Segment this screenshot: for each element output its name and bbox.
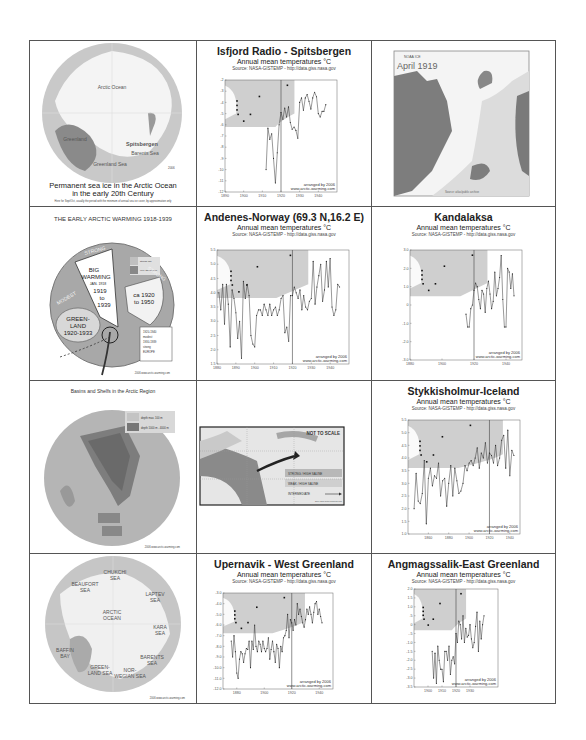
data-point <box>478 299 479 300</box>
data-point <box>464 642 465 643</box>
x-tick-label: 1910 <box>258 194 266 198</box>
y-tick-label: -7 <box>220 134 223 138</box>
inset-map <box>408 420 503 468</box>
data-point <box>465 314 466 315</box>
isfjord-svg: -2-3-4-5-6-7-8-9-10-11-12189019001910192… <box>211 77 341 201</box>
data-point <box>275 306 276 307</box>
y-tick-label: 1.0 <box>404 285 409 289</box>
data-point <box>495 445 496 446</box>
data-point <box>298 298 299 299</box>
data-point <box>250 667 251 668</box>
station-marker <box>236 109 238 111</box>
data-point <box>291 622 292 623</box>
chart-credit-2: www.arctic-warming.com <box>303 358 348 363</box>
map-stamp: 2006 <box>168 166 175 170</box>
ca-range-l1: ca 1920 <box>133 292 155 298</box>
x-tick-label: 1910 <box>270 366 278 370</box>
chart-credit-2: www.arctic-warming.com <box>476 354 521 359</box>
station-marker <box>444 265 446 267</box>
data-point <box>299 289 300 290</box>
station-marker <box>470 425 472 427</box>
data-point <box>240 651 241 652</box>
data-point <box>308 101 309 102</box>
data-point <box>483 293 484 294</box>
chart-source: Source: NASA-GISTEMP - http://data.giss.… <box>372 406 555 411</box>
data-point <box>504 326 505 327</box>
data-point <box>313 261 314 262</box>
big-warming-l6: 1939 <box>97 302 111 308</box>
data-point <box>304 627 305 628</box>
data-point <box>290 619 291 620</box>
data-point <box>322 111 323 112</box>
current-diagram: NOT TO SCALE STRONG / HIGH SALINE WEAK /… <box>197 381 372 554</box>
data-point <box>335 309 336 310</box>
data-point <box>294 619 295 620</box>
data-point <box>232 289 233 290</box>
data-point <box>432 651 433 652</box>
data-point <box>509 271 510 272</box>
data-point <box>287 614 288 615</box>
data-point <box>286 630 287 631</box>
caption-note: Here for Sept/Oct, usually the period wi… <box>55 199 172 203</box>
april-1919-footer: Source: atlas/public archive <box>445 190 480 194</box>
data-point <box>501 255 502 256</box>
y-tick-label: 3.0 <box>211 319 216 323</box>
data-point <box>276 644 277 645</box>
x-tick-label: 1940 <box>315 691 323 695</box>
x-tick-label: 1900 <box>424 689 432 693</box>
data-point <box>510 288 511 289</box>
data-point <box>432 485 433 486</box>
station-marker <box>419 441 421 443</box>
data-point <box>497 288 498 289</box>
data-point <box>284 107 285 108</box>
chart-credit-2: www.arctic-warming.com <box>287 683 332 688</box>
x-tick-label: 1930 <box>296 194 304 198</box>
data-point <box>294 126 295 127</box>
sea-label: BAY <box>60 653 70 659</box>
data-point <box>456 480 457 481</box>
data-point <box>258 309 259 310</box>
station-marker <box>421 279 423 281</box>
big-warming-l2: WARMING <box>81 274 111 280</box>
y-tick-label: -3.0 <box>406 676 412 680</box>
x-tick-label: 1890 <box>232 366 240 370</box>
kandalaksa-chart: 3.02.01.00-1.0-2.0-3.01880190019201940ar… <box>396 247 526 369</box>
data-point <box>443 681 444 682</box>
data-point <box>475 457 476 458</box>
data-point <box>322 301 323 302</box>
data-point <box>454 663 455 664</box>
data-point <box>513 295 514 296</box>
data-point <box>326 261 327 262</box>
data-point <box>277 315 278 316</box>
y-tick-label: -10 <box>218 168 223 172</box>
data-point <box>471 638 472 639</box>
y-tick-label: 5.0 <box>211 262 216 266</box>
x-tick-label: 1900 <box>260 691 268 695</box>
x-tick-label: 1940 <box>314 194 322 198</box>
data-point <box>489 293 490 294</box>
data-point <box>428 478 429 479</box>
caption-line2: in the early 20th Century <box>72 189 154 198</box>
map-label-spitsbergen: Spitsbergen <box>126 141 158 147</box>
data-point <box>453 656 454 657</box>
y-tick-label: -1.5 <box>406 650 412 654</box>
data-point <box>470 308 471 309</box>
y-tick-label: -3 <box>220 89 223 93</box>
data-point <box>292 295 293 296</box>
data-point <box>473 465 474 466</box>
data-point <box>312 97 313 98</box>
chart-credit-2: www.arctic-warming.com <box>474 528 519 533</box>
data-point <box>236 672 237 673</box>
map-label-barents: Barents Sea <box>131 150 159 156</box>
y-tick-label: 2.0 <box>404 267 409 271</box>
data-point <box>302 622 303 623</box>
x-tick-label: 1880 <box>406 362 414 366</box>
data-point <box>261 651 262 652</box>
sea-label: OCEAN <box>103 615 121 621</box>
data-point <box>231 640 232 641</box>
station-marker <box>287 84 289 86</box>
chart-source: Source: NASA-GISTEMP - http://data.giss.… <box>372 579 555 584</box>
data-point <box>482 624 483 625</box>
data-point <box>319 608 320 609</box>
x-tick-label: 1880 <box>213 366 221 370</box>
